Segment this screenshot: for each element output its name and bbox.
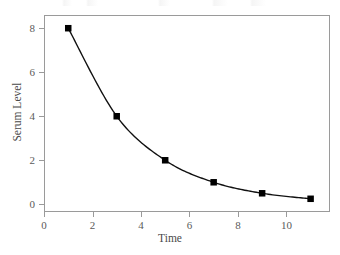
x-axis-tick-label: 0 xyxy=(41,220,47,231)
x-axis-tick-mark xyxy=(189,212,190,217)
x-axis-tick-mark xyxy=(93,212,94,217)
x-axis-tick-mark xyxy=(238,212,239,217)
data-point-marker xyxy=(65,25,72,32)
data-point-marker xyxy=(162,157,169,164)
y-axis-tick-mark xyxy=(39,160,44,161)
y-axis-tick-mark xyxy=(39,116,44,117)
x-axis-tick-label: 2 xyxy=(90,220,96,231)
data-point-marker xyxy=(210,179,217,186)
x-axis-tick-label: 6 xyxy=(187,220,193,231)
data-point-marker xyxy=(113,113,120,120)
y-axis-tick-label: 8 xyxy=(18,23,35,34)
data-point-markers xyxy=(65,25,314,202)
x-axis-tick-mark xyxy=(286,212,287,217)
x-axis-tick-mark xyxy=(44,212,45,217)
data-point-marker xyxy=(259,190,266,197)
x-axis-tick-mark xyxy=(141,212,142,217)
data-point-marker xyxy=(307,196,314,203)
serum-level-decay-chart: 02468 0246810 Time Serum Level xyxy=(0,0,340,255)
decay-curve-line xyxy=(68,28,310,199)
y-axis-title: Serum Level xyxy=(11,57,23,167)
x-axis-tick-label: 4 xyxy=(138,220,144,231)
y-axis-tick-mark xyxy=(39,28,44,29)
y-axis-tick-mark xyxy=(39,72,44,73)
plot-canvas xyxy=(44,15,330,212)
y-axis-tick-label: 0 xyxy=(18,199,35,210)
y-axis-tick-mark xyxy=(39,204,44,205)
x-axis-tick-label: 8 xyxy=(235,220,241,231)
x-axis-title: Time xyxy=(0,232,340,244)
x-axis-tick-label: 10 xyxy=(281,220,292,231)
cropped-caption-remnant xyxy=(62,0,277,6)
